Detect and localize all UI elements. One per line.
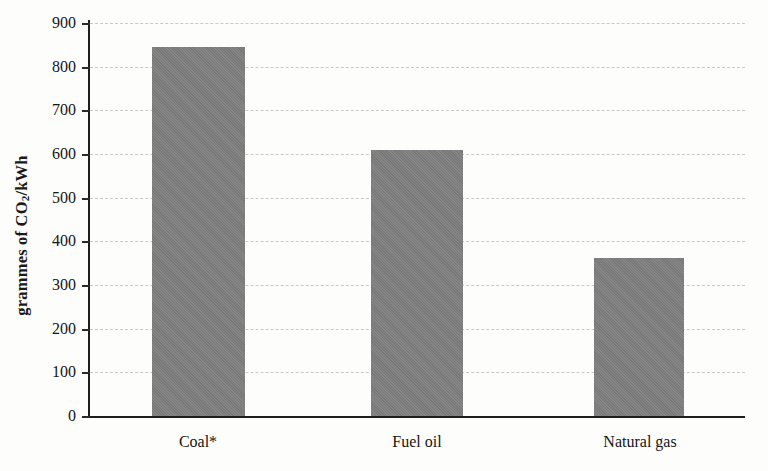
tick-mark-100 <box>82 372 90 374</box>
tick-mark-400 <box>82 241 90 243</box>
y-axis-line <box>88 20 90 418</box>
tick-mark-200 <box>82 329 90 331</box>
y-axis-title-prefix: grammes of CO <box>12 201 32 315</box>
tick-mark-0 <box>82 416 90 418</box>
y-tick-label-600: 600 <box>16 146 76 162</box>
tick-mark-600 <box>82 154 90 156</box>
bar-natural-gas <box>594 258 684 416</box>
y-tick-label-0: 0 <box>16 408 76 424</box>
y-tick-label-800: 800 <box>16 59 76 75</box>
bar-chart: grammes of CO2 /kWh 900 800 700 600 500 … <box>0 0 768 471</box>
tick-mark-800 <box>82 67 90 69</box>
y-tick-label-200: 200 <box>16 321 76 337</box>
x-category-label-coal: Coal* <box>138 432 258 451</box>
x-category-label-fuel-oil: Fuel oil <box>357 432 477 451</box>
bar-fuel-oil <box>371 150 463 416</box>
y-tick-label-700: 700 <box>16 102 76 118</box>
gridline-900 <box>90 23 745 24</box>
tick-mark-500 <box>82 198 90 200</box>
tick-mark-700 <box>82 110 90 112</box>
y-tick-label-100: 100 <box>16 364 76 380</box>
y-tick-label-400: 400 <box>16 233 76 249</box>
x-category-label-natural-gas: Natural gas <box>578 432 702 451</box>
y-tick-label-500: 500 <box>16 190 76 206</box>
tick-mark-900 <box>82 23 90 25</box>
bar-coal <box>152 47 245 416</box>
y-tick-label-900: 900 <box>16 15 76 31</box>
tick-mark-300 <box>82 285 90 287</box>
x-axis-line <box>88 416 745 418</box>
y-tick-label-300: 300 <box>16 277 76 293</box>
